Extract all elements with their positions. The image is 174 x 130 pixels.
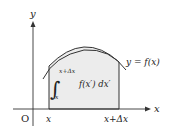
- x-axis-label: x: [154, 103, 160, 114]
- origin-label: O: [21, 113, 29, 124]
- integral-diagram: y x O y = f(x) x x+Δx ∫ x+Δx x f(x′) dx′: [0, 0, 174, 130]
- y-axis-label: y: [29, 8, 36, 19]
- x-axis-arrow-icon: [145, 107, 151, 112]
- y-axis-arrow-icon: [31, 21, 36, 27]
- lower-bound-label: x: [46, 114, 51, 124]
- upper-bound-label: x+Δx: [104, 114, 128, 124]
- curve-label: y = f(x): [125, 57, 160, 67]
- integrand: f(x′) dx′: [78, 79, 110, 89]
- integral-upper-limit: x+Δx: [59, 67, 76, 74]
